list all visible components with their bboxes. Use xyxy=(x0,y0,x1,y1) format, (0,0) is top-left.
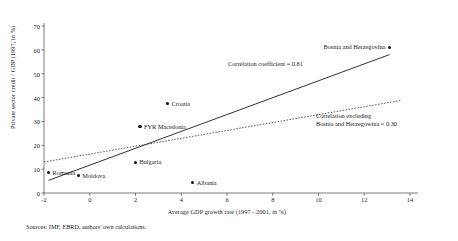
data-point-marker[interactable] xyxy=(138,125,141,128)
data-point-label: Romania xyxy=(53,169,76,176)
source-note: Sources: IMF, EBRD, authors' own calcula… xyxy=(26,223,146,230)
data-point-label: Bulgaria xyxy=(140,159,162,166)
data-point-label: Albania xyxy=(197,179,217,186)
scatter-chart-figure: Private sector credit / GDP (1997, in %)… xyxy=(0,0,458,241)
annotation-correlation-all: Correlation coefficient = 0.81 xyxy=(228,60,303,68)
data-point-marker[interactable] xyxy=(47,171,50,174)
data-point-marker[interactable] xyxy=(166,102,169,105)
annotation-correlation-excluding-bih: Correlation excludingBosnia and Herzegow… xyxy=(316,112,397,128)
plot-area: RomaniaMoldovaBulgariaFYR MacedoniaCroat… xyxy=(44,26,410,193)
data-point-marker[interactable] xyxy=(77,174,80,177)
data-point-label: Bosnia and Herzegovina xyxy=(324,44,386,51)
annotation-excl-line1: Correlation excluding xyxy=(316,112,371,119)
data-point-marker[interactable] xyxy=(191,181,194,184)
data-point-label: Moldova xyxy=(82,172,105,179)
data-point-marker[interactable] xyxy=(134,161,137,164)
annotation-excl-line2: Bosnia and Herzegowina = 0.30 xyxy=(316,120,397,127)
data-point-label: FYR Macedonia xyxy=(144,123,186,130)
data-point-label: Croatia xyxy=(172,100,191,107)
data-point-marker[interactable] xyxy=(388,46,391,49)
